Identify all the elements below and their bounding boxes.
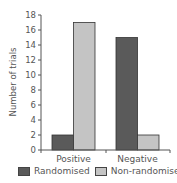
y-tick-label: 10 — [25, 70, 36, 80]
y-axis: 024681012141618 — [25, 10, 41, 155]
bar-chart: 024681012141618 PositiveNegative Number … — [0, 0, 177, 183]
legend-label-randomised: Randomised — [34, 166, 90, 176]
bar-negative-randomised — [116, 38, 138, 151]
legend-swatch-non-randomised — [95, 167, 107, 176]
y-tick-label: 8 — [31, 85, 36, 95]
legend-label-non-randomised: Non-randomised — [111, 166, 177, 176]
y-tick-label: 6 — [31, 100, 36, 110]
y-tick-label: 2 — [31, 130, 36, 140]
x-axis: PositiveNegative — [41, 150, 170, 164]
bar-positive-non-randomised — [74, 23, 96, 151]
y-tick-label: 12 — [25, 55, 36, 65]
x-category-label: Negative — [117, 154, 158, 164]
x-category-label: Positive — [56, 154, 91, 164]
y-axis-label: Number of trials — [8, 47, 18, 117]
legend-item-non-randomised: Non-randomised — [95, 166, 177, 176]
y-tick-label: 18 — [25, 10, 36, 20]
y-tick-label: 14 — [25, 40, 36, 50]
legend-swatch-randomised — [18, 167, 30, 176]
bar-positive-randomised — [52, 135, 74, 150]
legend: Randomised Non-randomised — [18, 166, 177, 176]
y-tick-label: 0 — [31, 145, 36, 155]
legend-item-randomised: Randomised — [18, 166, 90, 176]
y-tick-label: 16 — [25, 25, 36, 35]
bar-negative-non-randomised — [138, 135, 160, 150]
bars — [52, 23, 159, 151]
y-tick-label: 4 — [31, 115, 36, 125]
